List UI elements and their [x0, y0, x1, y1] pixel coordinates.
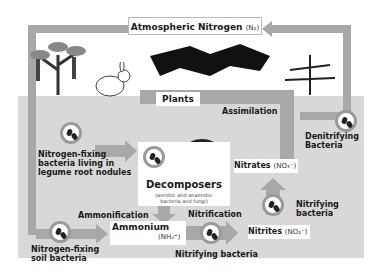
- atmospheric-label: Atmospheric Nitrogen: [131, 22, 243, 32]
- soil-bacteria-label: Nitrogen-fixing soil bacteria: [31, 245, 99, 263]
- atmospheric-formula: (N₂): [246, 24, 260, 32]
- nitrites-formula: (NO₂⁻): [285, 228, 308, 236]
- plants-box: Plants: [156, 92, 200, 106]
- ammonium-formula: (NH₄⁺): [158, 233, 180, 241]
- legume-line1: Nitrogen-fixing: [38, 150, 131, 159]
- nitrifying-right-line1: Nitrifying: [296, 200, 339, 209]
- arrow-head-nitrites: [226, 221, 238, 245]
- assimilation-label: Assimilation: [222, 107, 277, 116]
- arrow-right-vertical: [343, 25, 351, 115]
- legume-label: Nitrogen-fixing bacteria living in legum…: [38, 150, 131, 177]
- arrow-head-atm: [262, 21, 272, 37]
- nitrifying-bacteria-right-icon: [262, 194, 284, 216]
- nitrates-label: Nitrates: [234, 161, 271, 170]
- plants-label: Plants: [162, 94, 194, 104]
- ammonium-label: Ammonium: [112, 223, 169, 232]
- decomposers-bacteria-icon: [143, 146, 165, 168]
- nitrifying-right-line2: bacteria: [296, 209, 339, 218]
- tree-right-icon: [280, 50, 340, 95]
- nitrates-formula: (NO₃⁻): [273, 162, 296, 170]
- legume-bacteria-icon: [60, 122, 82, 144]
- nitrites-box: Nitrites (NO₂⁻): [248, 225, 310, 239]
- denitrifying-line2: Bacteria: [305, 141, 359, 150]
- soil-bacteria-line2: soil bacteria: [31, 254, 99, 263]
- denitrifying-bacteria-icon: [335, 110, 357, 132]
- nitrifying-right-label: Nitrifying bacteria: [296, 200, 339, 218]
- arrow-head-up: [260, 178, 286, 190]
- legume-line3: legume root nodules: [38, 168, 131, 177]
- nitrifying-bottom-label: Nitrifying bacteria: [175, 250, 258, 259]
- decomposers-desc-line2: bacteria and fungi): [140, 198, 228, 204]
- nitrites-label: Nitrites: [248, 227, 282, 236]
- decomposers-desc: (aerobic and anaerobic bacteria and fung…: [140, 192, 228, 204]
- legume-line2: bacteria living in: [38, 159, 131, 168]
- arrow-head-ammonium: [96, 224, 108, 244]
- decomposers-label: Decomposers: [146, 180, 222, 189]
- ammonification-label: Ammonification: [78, 211, 149, 220]
- arrow-top-right: [270, 25, 351, 33]
- legume-plant-icon: [28, 35, 88, 95]
- denitrifying-label: Denitrifying Bacteria: [305, 132, 359, 150]
- nitrification-label: Nitrification: [188, 210, 242, 219]
- tree-icon: [150, 36, 270, 86]
- nitrates-box: Nitrates (NO₃⁻): [234, 159, 298, 173]
- rabbit-icon: [92, 62, 134, 98]
- nitrification-bacteria-icon: [200, 222, 222, 244]
- atmospheric-nitrogen-box: Atmospheric Nitrogen (N₂): [128, 17, 262, 35]
- arrow-top-left: [28, 25, 128, 33]
- soil-bacteria-line1: Nitrogen-fixing: [31, 245, 99, 254]
- denitrifying-line1: Denitrifying: [305, 132, 359, 141]
- soil-bacteria-icon: [49, 221, 71, 243]
